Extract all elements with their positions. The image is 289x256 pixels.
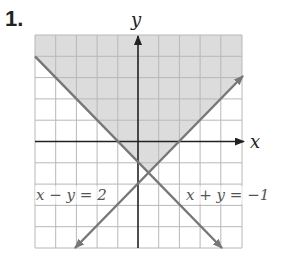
y-axis-label: y xyxy=(130,9,142,30)
x-axis-label: x xyxy=(250,131,260,152)
equation-label-line1: x − y = 2 xyxy=(36,186,107,204)
graph: y x x − y = 2 x + y = −1 xyxy=(0,0,289,256)
equation-label-line2: x + y = −1 xyxy=(186,186,269,204)
